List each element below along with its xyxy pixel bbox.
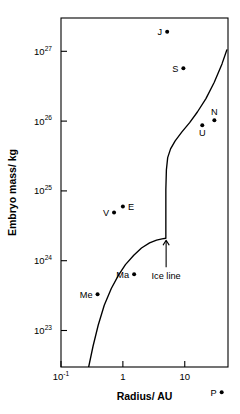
x-tick-label-1: 1 bbox=[120, 371, 125, 382]
embryo-mass-vs-radius-chart: 1023102410251026102710-1110MeVEMaJSUNPIc… bbox=[0, 0, 240, 414]
data-point-N bbox=[212, 118, 216, 122]
x-tick-label-0: 10-1 bbox=[53, 370, 70, 382]
y-tick-label-3: 1026 bbox=[34, 114, 52, 126]
data-point-Ma bbox=[132, 272, 136, 276]
embryo-isolation-mass-curve bbox=[89, 50, 227, 367]
data-point-label-J: J bbox=[158, 27, 163, 37]
data-point-J bbox=[165, 30, 169, 34]
data-point-E bbox=[121, 204, 125, 208]
data-point-label-U: U bbox=[199, 128, 206, 138]
data-point-label-Me: Me bbox=[80, 290, 93, 300]
annotation-label-ice-line: Ice line bbox=[152, 271, 181, 281]
data-point-U bbox=[200, 123, 204, 127]
data-point-label-P: P bbox=[211, 388, 217, 398]
data-point-label-V: V bbox=[103, 208, 110, 218]
data-point-label-E: E bbox=[128, 202, 134, 212]
y-tick-label-0: 1023 bbox=[34, 324, 52, 336]
data-point-P bbox=[220, 390, 224, 394]
data-point-label-N: N bbox=[211, 107, 218, 117]
plot-canvas: 1023102410251026102710-1110MeVEMaJSUNPIc… bbox=[0, 0, 240, 414]
x-tick-label-2: 10 bbox=[179, 371, 190, 382]
data-point-V bbox=[112, 211, 116, 215]
plot-frame bbox=[61, 18, 228, 367]
y-tick-label-4: 1027 bbox=[34, 45, 52, 57]
data-point-label-S: S bbox=[172, 64, 178, 74]
data-point-Me bbox=[96, 292, 100, 296]
y-tick-label-2: 1025 bbox=[34, 184, 52, 196]
data-point-label-Ma: Ma bbox=[116, 270, 130, 280]
y-axis-title: Embryo mass/ kg bbox=[6, 149, 18, 236]
x-axis-title: Radius/ AU bbox=[117, 390, 173, 402]
data-point-S bbox=[181, 66, 185, 70]
y-tick-label-1: 1024 bbox=[34, 254, 52, 266]
